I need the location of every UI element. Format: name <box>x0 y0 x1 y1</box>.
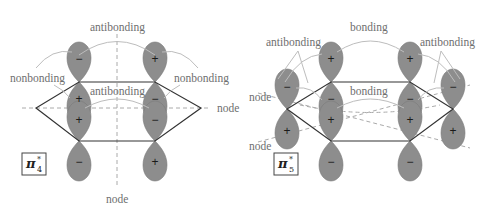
panel-pi5: − + + + − − + + − − − + bonding antibond… <box>249 21 475 181</box>
svg-text:*: * <box>37 155 41 164</box>
panel-pi4: − + + − + − − + antibonding nonbonding n… <box>10 21 239 205</box>
sign-outer-right-top: − <box>449 80 456 94</box>
label-antibonding-left: antibonding <box>266 36 321 49</box>
orbital-label-pi4: π * 4 <box>22 153 46 175</box>
sign-upper-mid-right: − <box>406 92 413 106</box>
label-nonbonding-left: nonbonding <box>10 72 65 85</box>
sign-bottom-right: − <box>406 155 413 169</box>
sign-upper-mid-left: + <box>75 92 82 106</box>
arc-bonding-top <box>337 41 404 52</box>
sign-upper-mid-left: − <box>327 92 334 106</box>
svg-text:π: π <box>25 156 36 171</box>
label-node-right: node <box>217 102 239 114</box>
arc-bonding-mid <box>337 99 404 108</box>
sign-top-right: + <box>151 52 158 66</box>
svg-text:5: 5 <box>289 165 294 174</box>
sign-lower-mid-left: + <box>75 113 82 127</box>
sign-outer-left-bottom: + <box>283 124 290 138</box>
svg-text:π: π <box>277 156 288 171</box>
sign-bottom-left: − <box>75 155 82 169</box>
sign-lower-mid-left: + <box>327 113 334 127</box>
sign-upper-mid-right: − <box>151 92 158 106</box>
orbital-label-pi5: π * 5 <box>274 153 298 175</box>
arc-nonbonding-right-top <box>162 51 198 68</box>
pointer-antibonding-left-a <box>298 51 308 83</box>
label-antibonding-top: antibonding <box>90 21 145 34</box>
sign-bottom-left: − <box>327 155 334 169</box>
arc-nonbonding-left-top <box>36 51 72 68</box>
sign-top-left: − <box>75 52 82 66</box>
label-bonding-top: bonding <box>350 21 388 34</box>
label-antibonding-right: antibonding <box>420 36 475 49</box>
label-bonding-mid: bonding <box>350 85 388 98</box>
svg-text:4: 4 <box>37 165 42 174</box>
sign-top-right: + <box>406 52 413 66</box>
mo-diagram: − + + − + − − + antibonding nonbonding n… <box>0 0 487 210</box>
pointer-antibonding-right-a <box>434 51 441 83</box>
svg-text:*: * <box>289 155 293 164</box>
label-antibonding-mid: antibonding <box>90 85 145 98</box>
sign-outer-left-top: − <box>283 80 290 94</box>
label-node-bottom: node <box>106 193 128 205</box>
sign-outer-right-bottom: + <box>449 124 456 138</box>
label-node-left-upper: node <box>249 91 271 103</box>
sign-lower-mid-right: − <box>151 113 158 127</box>
sign-top-left: + <box>327 52 334 66</box>
sign-lower-mid-right: + <box>406 113 413 127</box>
label-nonbonding-right: nonbonding <box>174 72 229 85</box>
label-node-left-lower: node <box>249 140 271 152</box>
sign-bottom-right: + <box>151 155 158 169</box>
